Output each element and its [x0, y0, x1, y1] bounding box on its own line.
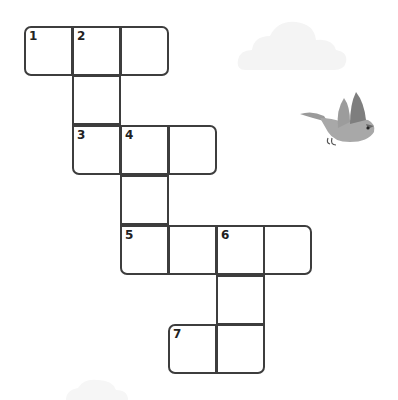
crossword-cell[interactable]: 1	[24, 26, 73, 76]
crossword-cell[interactable]: 5	[120, 225, 169, 275]
crossword-cell[interactable]	[72, 75, 121, 125]
crossword-cell[interactable]: 3	[72, 125, 121, 175]
crossword-cell[interactable]	[216, 324, 265, 374]
clue-number: 6	[221, 229, 229, 241]
crossword-cell[interactable]	[120, 175, 169, 225]
clue-number: 2	[77, 30, 85, 42]
clue-number: 3	[77, 129, 85, 141]
crossword-cell[interactable]: 7	[168, 324, 217, 374]
clue-number: 7	[173, 328, 181, 340]
clue-number: 4	[125, 129, 133, 141]
clue-number: 5	[125, 229, 133, 241]
crossword-cell[interactable]: 2	[72, 26, 121, 76]
clue-number: 1	[29, 30, 37, 42]
crossword-cell[interactable]: 4	[120, 125, 169, 175]
cloud-icon	[62, 376, 132, 400]
crossword-cell[interactable]	[263, 225, 312, 275]
crossword-cell[interactable]	[120, 26, 169, 76]
crossword-cell[interactable]	[168, 225, 217, 275]
bird-icon	[298, 88, 376, 148]
crossword-cell[interactable]	[168, 125, 217, 175]
crossword-cell[interactable]: 6	[216, 225, 265, 275]
crossword-cell[interactable]	[216, 275, 265, 325]
cloud-icon	[236, 16, 348, 74]
